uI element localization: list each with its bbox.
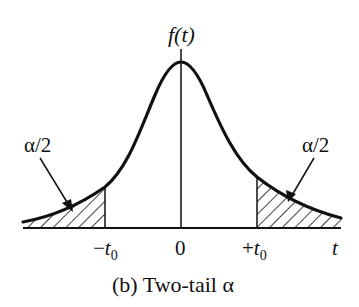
y-axis-label: f(t) — [168, 24, 195, 46]
tick-neg-t0: −t0 — [93, 238, 118, 259]
tick-sub: 0 — [111, 248, 118, 263]
tick-var: t — [254, 236, 260, 260]
tick-sign: + — [242, 236, 254, 260]
left-arrow-line — [40, 158, 70, 207]
density-curve — [23, 62, 341, 222]
tick-zero: 0 — [175, 238, 186, 259]
x-axis-label: t — [332, 238, 338, 259]
left-tail-label: α/2 — [24, 135, 51, 156]
tick-sign: − — [93, 236, 105, 260]
left-tail-hatch — [0, 150, 110, 230]
tick-var: t — [105, 236, 111, 260]
right-arrow-line — [291, 158, 314, 197]
caption: (b) Two-tail α — [112, 274, 234, 296]
tick-sub: 0 — [260, 248, 267, 263]
right-tail-label: α/2 — [302, 135, 329, 156]
tick-pos-t0: +t0 — [242, 238, 267, 259]
